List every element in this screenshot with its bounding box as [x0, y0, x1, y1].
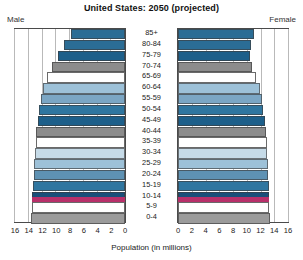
- magenta-stripe: [178, 197, 269, 201]
- age-label-55-59: 55-59: [126, 93, 177, 103]
- bar-female-65-69: [178, 72, 256, 82]
- bar-male-55-59: [41, 94, 125, 104]
- bar-female-5-9: [178, 202, 269, 212]
- female-bars: [178, 29, 288, 222]
- bar-male-80-84: [64, 40, 125, 50]
- bar-male-15-19: [33, 181, 125, 191]
- x-tick-female-16: 16: [284, 226, 292, 235]
- x-tick-male-8: 8: [68, 226, 72, 235]
- bar-male-0-4: [31, 213, 125, 223]
- x-tick-male-4: 4: [95, 226, 99, 235]
- male-bars: [15, 29, 125, 222]
- male-side-label: Male: [7, 15, 24, 24]
- age-label-35-39: 35-39: [126, 136, 177, 146]
- x-tick-male-0: 0: [123, 226, 127, 235]
- x-tick-female-12: 12: [256, 226, 264, 235]
- bar-male-60-64: [43, 83, 125, 93]
- bar-female-55-59: [178, 94, 262, 104]
- age-label-65-69: 65-69: [126, 71, 177, 81]
- age-label-40-44: 40-44: [126, 126, 177, 136]
- age-label-25-29: 25-29: [126, 158, 177, 168]
- x-axis-label: Population (in millions): [0, 243, 303, 252]
- bar-female-20-24: [178, 170, 268, 180]
- female-side-label: Female: [269, 15, 296, 24]
- bar-female-60-64: [178, 83, 260, 93]
- female-panel: [177, 28, 289, 223]
- x-tick-female-0: 0: [176, 226, 180, 235]
- bar-male-25-29: [34, 159, 125, 169]
- bar-female-50-54: [178, 105, 263, 115]
- bar-female-70-74: [178, 62, 252, 72]
- age-label-10-14: 10-14: [126, 191, 177, 201]
- bar-male-35-39: [36, 137, 125, 147]
- bar-female-40-44: [178, 127, 266, 137]
- age-label-80-84: 80-84: [126, 39, 177, 49]
- age-group-labels: 85+80-8475-7970-7465-6960-6455-5950-5445…: [126, 28, 177, 223]
- bar-male-70-74: [52, 62, 125, 72]
- bar-female-80-84: [178, 40, 251, 50]
- bar-male-45-49: [38, 116, 125, 126]
- bar-female-85+: [178, 29, 254, 39]
- bar-female-25-29: [178, 159, 268, 169]
- x-tick-female-2: 2: [190, 226, 194, 235]
- x-tick-female-8: 8: [231, 226, 235, 235]
- x-tick-female-10: 10: [243, 226, 251, 235]
- bar-female-15-19: [178, 181, 269, 191]
- bar-female-30-34: [178, 148, 267, 158]
- x-tick-female-6: 6: [217, 226, 221, 235]
- x-tick-male-14: 14: [25, 226, 33, 235]
- age-label-70-74: 70-74: [126, 61, 177, 71]
- bar-female-45-49: [178, 116, 265, 126]
- chart-title: United States: 2050 (projected): [0, 3, 303, 13]
- x-tick-male-10: 10: [52, 226, 60, 235]
- age-label-75-79: 75-79: [126, 50, 177, 60]
- population-pyramid-chart: United States: 2050 (projected) Male Fem…: [0, 0, 303, 260]
- gridline: [288, 29, 289, 222]
- bar-female-75-79: [178, 51, 250, 61]
- age-label-0-4: 0-4: [126, 212, 177, 222]
- plot-area: 85+80-8475-7970-7465-6960-6455-5950-5445…: [14, 28, 289, 223]
- bar-male-50-54: [39, 105, 125, 115]
- bar-female-0-4: [178, 213, 270, 223]
- x-tick-male-16: 16: [11, 226, 19, 235]
- age-label-60-64: 60-64: [126, 82, 177, 92]
- bar-female-35-39: [178, 137, 267, 147]
- age-label-15-19: 15-19: [126, 180, 177, 190]
- age-label-50-54: 50-54: [126, 104, 177, 114]
- bar-male-85+: [71, 29, 125, 39]
- x-tick-male-12: 12: [38, 226, 46, 235]
- bar-male-5-9: [32, 202, 126, 212]
- age-label-20-24: 20-24: [126, 169, 177, 179]
- male-panel: [14, 28, 126, 223]
- bar-male-30-34: [35, 148, 125, 158]
- bar-male-65-69: [47, 72, 125, 82]
- age-label-85+: 85+: [126, 28, 177, 38]
- age-label-5-9: 5-9: [126, 201, 177, 211]
- x-axis-ticks: 16141210864200246810121416: [14, 226, 289, 238]
- bar-male-20-24: [34, 170, 125, 180]
- magenta-stripe: [32, 197, 125, 201]
- x-tick-male-2: 2: [109, 226, 113, 235]
- x-tick-female-4: 4: [203, 226, 207, 235]
- x-tick-male-6: 6: [82, 226, 86, 235]
- x-tick-female-14: 14: [270, 226, 278, 235]
- age-label-30-34: 30-34: [126, 147, 177, 157]
- bar-male-75-79: [58, 51, 125, 61]
- age-label-45-49: 45-49: [126, 115, 177, 125]
- bar-male-40-44: [36, 127, 125, 137]
